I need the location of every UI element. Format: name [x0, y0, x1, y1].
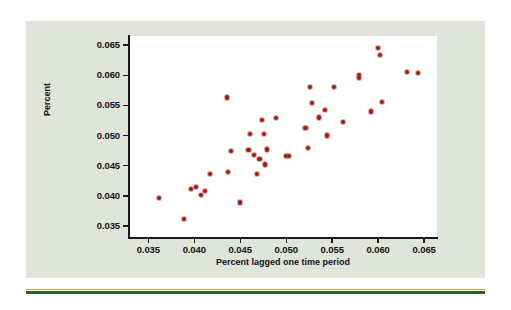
x-tick-label: 0.045	[217, 244, 263, 255]
y-axis-label: Percent	[42, 83, 52, 116]
y-tick-mark	[123, 105, 128, 106]
x-tick-mark	[148, 238, 149, 243]
scatter-point	[257, 157, 261, 161]
x-tick-label: 0.060	[355, 244, 401, 255]
x-axis-line	[128, 237, 438, 239]
plot-area	[129, 36, 437, 237]
figure-panel: 0.0350.0400.0450.0500.0550.0600.065 0.03…	[26, 21, 485, 278]
scatter-point	[323, 108, 327, 112]
scatter-point	[265, 147, 269, 151]
y-tick-label: 0.055	[73, 99, 120, 110]
scatter-point	[189, 187, 193, 191]
x-tick-mark	[331, 238, 332, 243]
scatter-point	[303, 126, 307, 130]
scatter-point	[405, 70, 409, 74]
x-tick-label: 0.050	[263, 244, 309, 255]
y-tick-label: 0.060	[73, 69, 120, 80]
scatter-point	[416, 71, 420, 75]
x-tick-mark	[377, 238, 378, 243]
scatter-point	[369, 109, 373, 113]
y-tick-label: 0.040	[73, 190, 120, 201]
x-tick-mark	[194, 238, 195, 243]
scatter-point	[378, 53, 382, 57]
y-tick-label: 0.035	[73, 220, 120, 231]
y-axis-line	[128, 35, 130, 238]
x-axis-label: Percent lagged one time period	[129, 257, 437, 267]
figure-page: 0.0350.0400.0450.0500.0550.0600.065 0.03…	[0, 0, 511, 310]
x-tick-label: 0.055	[309, 244, 355, 255]
x-tick-mark	[423, 238, 424, 243]
scatter-point	[380, 100, 384, 104]
y-tick-label: 0.045	[73, 160, 120, 171]
scatter-point	[332, 85, 336, 89]
scatter-point	[317, 115, 321, 119]
y-tick-mark	[123, 44, 128, 45]
scatter-point	[325, 133, 329, 137]
y-tick-mark	[123, 225, 128, 226]
x-tick-mark	[240, 238, 241, 243]
scatter-point	[246, 148, 250, 152]
y-tick-mark	[123, 75, 128, 76]
scatter-point	[238, 200, 242, 204]
scatter-point	[229, 149, 233, 153]
y-tick-label: 0.050	[73, 130, 120, 141]
y-tick-mark	[123, 165, 128, 166]
x-tick-label: 0.065	[401, 244, 447, 255]
bottom-rule	[26, 291, 485, 294]
x-tick-label: 0.035	[125, 244, 171, 255]
x-tick-label: 0.040	[171, 244, 217, 255]
y-tick-mark	[123, 195, 128, 196]
y-tick-mark	[123, 135, 128, 136]
scatter-point	[263, 162, 267, 166]
y-tick-label: 0.065	[73, 39, 120, 50]
scatter-point	[357, 76, 361, 80]
x-tick-mark	[286, 238, 287, 243]
scatter-point	[308, 85, 312, 89]
scatter-point	[208, 172, 212, 176]
bottom-rule-accent	[26, 289, 485, 290]
